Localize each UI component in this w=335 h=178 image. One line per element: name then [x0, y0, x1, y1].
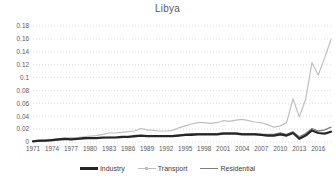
legend-item-residential: Residential — [200, 165, 255, 172]
legend-label-residential: Residential — [220, 165, 255, 172]
legend-item-industry: Industry — [80, 165, 125, 172]
x-tick-label: 1995 — [178, 145, 193, 152]
x-tick-label: 1992 — [159, 145, 174, 152]
x-tick-label: 2004 — [235, 145, 250, 152]
x-tick-label: 1980 — [83, 145, 98, 152]
x-tick-label: 2010 — [273, 145, 288, 152]
legend-key-transport-marker-icon — [145, 167, 148, 170]
x-tick-label: 2007 — [254, 145, 269, 152]
legend-label-transport: Transport — [158, 165, 188, 172]
x-tick-label: 1998 — [197, 145, 212, 152]
legend: Industry Transport Residential — [0, 165, 335, 172]
y-tick-label: 0.04 — [17, 113, 30, 120]
x-tick-label: 1977 — [64, 145, 79, 152]
y-tick-label: 0.16 — [17, 35, 30, 42]
x-tick-label: 2013 — [292, 145, 307, 152]
legend-key-industry-line — [80, 167, 98, 169]
series-transport — [33, 40, 331, 142]
x-tick-label: 1974 — [45, 145, 60, 152]
chart-card: Libya 0.180.160.140.120.10.080.060.040.0… — [0, 0, 335, 178]
y-tick-label: 0.02 — [17, 125, 30, 132]
x-tick-label: 1983 — [102, 145, 117, 152]
x-tick-label: 2001 — [216, 145, 231, 152]
legend-key-transport-line — [138, 168, 156, 170]
legend-key-residential-line — [200, 168, 218, 170]
x-tick-label: 1989 — [140, 145, 155, 152]
y-tick-label: 0.06 — [17, 100, 30, 107]
line-plot: 0.180.160.140.120.10.080.060.040.0201971… — [0, 0, 335, 178]
y-tick-label: 0.1 — [20, 74, 29, 81]
legend-item-transport: Transport — [138, 165, 188, 172]
y-tick-label: 0.12 — [17, 61, 30, 68]
y-tick-label: 0.14 — [17, 48, 30, 55]
x-tick-label: 2016 — [311, 145, 326, 152]
legend-label-industry: Industry — [100, 165, 125, 172]
y-tick-label: 0.08 — [17, 87, 30, 94]
x-tick-label: 1986 — [121, 145, 136, 152]
x-tick-label: 1971 — [26, 145, 41, 152]
series-industry — [33, 130, 331, 141]
y-tick-label: 0.18 — [17, 22, 30, 29]
